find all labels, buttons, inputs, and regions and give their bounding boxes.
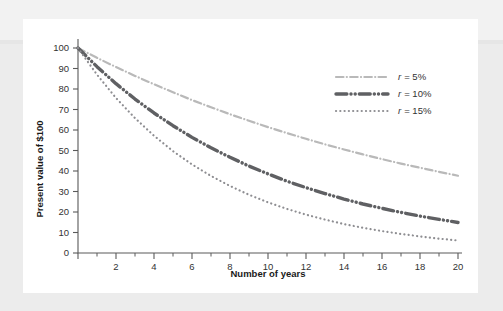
x-tick-label: 16	[377, 261, 388, 272]
y-axis-title: Present value of $100	[34, 120, 45, 217]
y-tick-label: 70	[58, 104, 69, 115]
legend-label: r= 10%	[398, 88, 432, 99]
x-tick-label: 14	[339, 261, 350, 272]
x-tick-label: 4	[151, 261, 156, 272]
y-tick-label: 80	[58, 83, 69, 94]
x-tick-label: 6	[189, 261, 194, 272]
y-tick-label: 20	[58, 206, 69, 217]
legend-label: r= 5%	[398, 71, 427, 82]
chart-plot-area: 0102030405060708090100 2468101214161820 …	[23, 19, 478, 293]
y-tick-label: 0	[64, 247, 69, 258]
x-tick-label: 2	[113, 261, 118, 272]
figure-card: 0102030405060708090100 2468101214161820 …	[23, 19, 478, 293]
y-tick-label: 30	[58, 186, 69, 197]
chart-legend: r= 5%r= 10%r= 15%	[336, 71, 432, 116]
y-tick-label: 100	[53, 42, 69, 53]
x-tick-label: 18	[415, 261, 426, 272]
y-tick-label: 10	[58, 227, 69, 238]
y-axis-tick-labels: 0102030405060708090100	[53, 42, 69, 258]
page-root: 0102030405060708090100 2468101214161820 …	[0, 0, 503, 311]
y-tick-label: 40	[58, 165, 69, 176]
present-value-line-chart: 0102030405060708090100 2468101214161820 …	[23, 19, 478, 293]
x-tick-label: 20	[453, 261, 464, 272]
legend-label: r= 15%	[398, 105, 432, 116]
y-tick-label: 60	[58, 124, 69, 135]
x-axis-title: Number of years	[231, 268, 306, 279]
y-tick-label: 90	[58, 63, 69, 74]
y-tick-label: 50	[58, 145, 69, 156]
